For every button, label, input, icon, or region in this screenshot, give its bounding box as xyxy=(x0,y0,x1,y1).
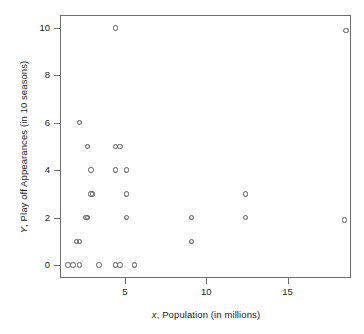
x-axis-tick-label: 5 xyxy=(110,286,140,297)
y-axis-tick-label-text: 4 xyxy=(16,165,50,175)
y-axis-tick-label: 0 xyxy=(0,260,50,270)
y-axis-tick-label: 8 xyxy=(0,70,50,80)
y-axis-label-variable: Y xyxy=(18,227,29,233)
y-axis-label-text: , Play off Appearances (in 10 seasons) xyxy=(18,61,29,227)
y-axis-tick-label: 4 xyxy=(0,165,50,175)
y-axis-tick-label: 2 xyxy=(0,213,50,223)
y-axis-tick-label-text: 8 xyxy=(16,70,50,80)
x-axis-tick-mark xyxy=(288,278,289,284)
x-axis-tick-mark xyxy=(206,278,207,284)
y-axis-tick-label-text: 10 xyxy=(16,23,50,33)
scatter-plot-figure: Y, Play off Appearances (in 10 seasons) … xyxy=(0,0,364,334)
y-axis-tick-label-text: 2 xyxy=(16,213,50,223)
y-axis-tick-label-text: 6 xyxy=(16,118,50,128)
y-axis-tick-label: 10 xyxy=(0,23,50,33)
x-axis-tick-label: 10 xyxy=(191,286,221,297)
y-axis-tick-label: 6 xyxy=(0,118,50,128)
x-axis-label: x, Population (in millions) xyxy=(60,309,352,320)
y-axis-label: Y, Play off Appearances (in 10 seasons) xyxy=(16,2,32,292)
y-axis-tick-label-text: 0 xyxy=(16,260,50,270)
x-axis-label-text: , Population (in millions) xyxy=(157,309,260,320)
x-axis-tick-label: 15 xyxy=(273,286,303,297)
x-axis-tick-mark xyxy=(125,278,126,284)
plot-area-frame xyxy=(60,15,351,278)
